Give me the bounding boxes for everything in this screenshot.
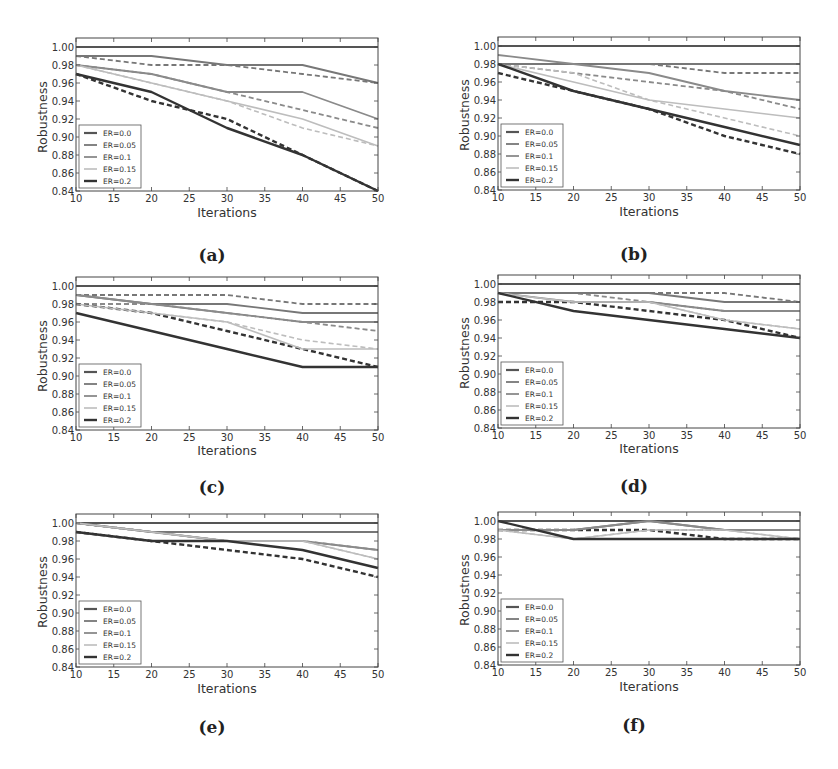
series-line <box>498 521 800 530</box>
series-line <box>498 521 800 530</box>
x-axis-label: Iterations <box>619 679 679 694</box>
y-tick-label: 0.92 <box>474 588 496 599</box>
panel-f: 1015202530354045500.840.860.880.900.920.… <box>0 0 419 245</box>
x-tick-label: 40 <box>718 667 731 678</box>
x-tick-label: 35 <box>680 667 693 678</box>
legend-label: ER=0.1 <box>525 627 553 636</box>
legend-label: ER=0.0 <box>525 603 553 612</box>
y-tick-label: 1.00 <box>474 516 496 527</box>
legend-label: ER=0.15 <box>525 639 558 648</box>
x-tick-label: 25 <box>605 667 618 678</box>
x-tick-label: 50 <box>794 667 807 678</box>
panel-caption: (f) <box>622 715 645 735</box>
plot-f: 1015202530354045500.840.860.880.900.920.… <box>0 0 838 769</box>
x-tick-label: 20 <box>567 667 580 678</box>
y-tick-label: 0.86 <box>474 642 496 653</box>
x-tick-label: 30 <box>643 667 656 678</box>
y-tick-label: 0.84 <box>474 660 496 671</box>
y-tick-label: 0.94 <box>474 570 496 581</box>
x-tick-label: 15 <box>529 667 542 678</box>
y-tick-label: 0.96 <box>474 552 496 563</box>
x-tick-label: 45 <box>756 667 769 678</box>
y-tick-label: 0.88 <box>474 624 496 635</box>
y-axis-label: Robustness <box>457 554 472 626</box>
legend: ER=0.0ER=0.05ER=0.1ER=0.15ER=0.2 <box>501 599 563 662</box>
legend-label: ER=0.2 <box>525 651 553 660</box>
legend-label: ER=0.05 <box>525 615 558 624</box>
y-tick-label: 0.98 <box>474 534 496 545</box>
y-tick-label: 0.90 <box>474 606 496 617</box>
